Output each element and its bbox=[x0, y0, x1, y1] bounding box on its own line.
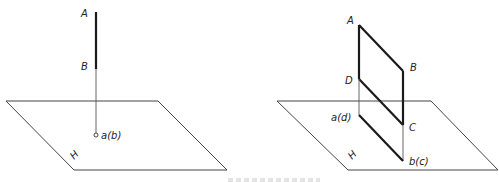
label-a: A bbox=[346, 15, 354, 26]
edge-ab bbox=[359, 25, 403, 71]
projection-line-ad-bc bbox=[359, 115, 403, 161]
figure-caption-cropped bbox=[228, 178, 320, 182]
label-c: C bbox=[409, 122, 416, 133]
label-d: D bbox=[345, 75, 353, 86]
label-b: B bbox=[81, 61, 88, 72]
right-figure: A B C D a(d) b(c) H bbox=[277, 15, 498, 170]
projection-diagram: A B a(b) H A B C D a(d) b(c) H bbox=[0, 0, 499, 182]
label-a-d: a(d) bbox=[331, 112, 351, 123]
label-b-c: b(c) bbox=[409, 156, 429, 167]
label-a-b: a(b) bbox=[101, 130, 121, 141]
label-a: A bbox=[80, 8, 88, 19]
projection-point-ab bbox=[94, 133, 98, 137]
label-h-left: H bbox=[68, 148, 81, 161]
plane-h-right bbox=[277, 101, 498, 170]
edge-cd bbox=[359, 79, 403, 125]
label-b: B bbox=[410, 62, 417, 73]
label-h-right: H bbox=[346, 148, 359, 161]
left-figure: A B a(b) H bbox=[6, 8, 227, 170]
